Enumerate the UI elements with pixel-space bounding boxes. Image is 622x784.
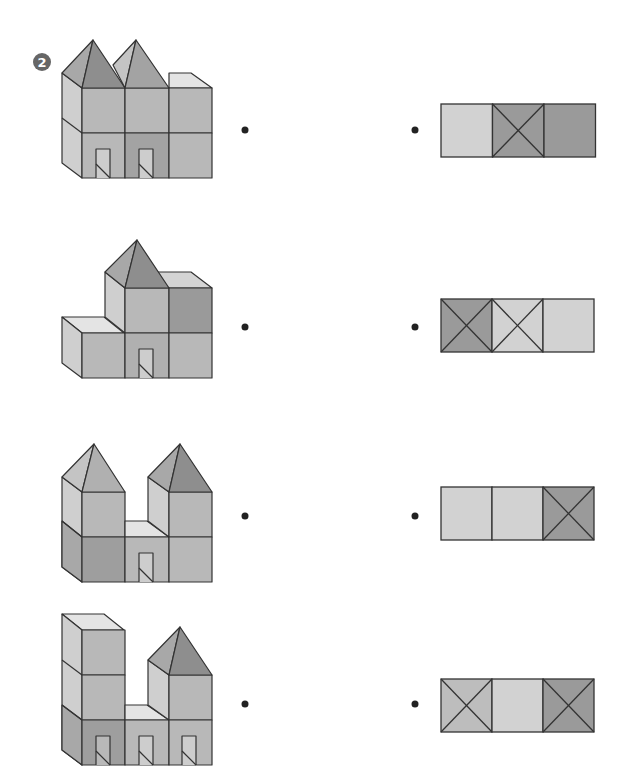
- match-dots: [242, 127, 419, 708]
- match-dot-right-1[interactable]: [412, 127, 419, 134]
- exercise-number: 2: [37, 55, 46, 70]
- top-view-3[interactable]: [441, 487, 594, 540]
- top-view-4[interactable]: [441, 679, 594, 732]
- flat-tile: [441, 104, 493, 157]
- match-dot-left-2[interactable]: [242, 324, 249, 331]
- top-view-1[interactable]: [441, 104, 596, 157]
- match-dot-right-2[interactable]: [412, 324, 419, 331]
- exercise-number-badge: 2: [33, 53, 51, 71]
- match-dot-left-1[interactable]: [242, 127, 249, 134]
- match-dot-right-4[interactable]: [412, 701, 419, 708]
- figure-4-building[interactable]: [62, 614, 212, 765]
- flat-tile: [544, 104, 596, 157]
- match-dot-left-4[interactable]: [242, 701, 249, 708]
- figure-2-building[interactable]: [62, 240, 212, 378]
- match-dot-left-3[interactable]: [242, 513, 249, 520]
- match-dot-right-3[interactable]: [412, 513, 419, 520]
- worksheet-canvas: 2: [0, 0, 622, 784]
- flat-tile: [441, 487, 492, 540]
- figure-3-building[interactable]: [62, 444, 212, 582]
- flat-tile: [492, 679, 543, 732]
- top-view-options: [441, 104, 596, 732]
- flat-tile: [543, 299, 594, 352]
- top-view-2[interactable]: [441, 299, 594, 352]
- figure-1-building[interactable]: [62, 40, 212, 178]
- flat-tile: [492, 487, 543, 540]
